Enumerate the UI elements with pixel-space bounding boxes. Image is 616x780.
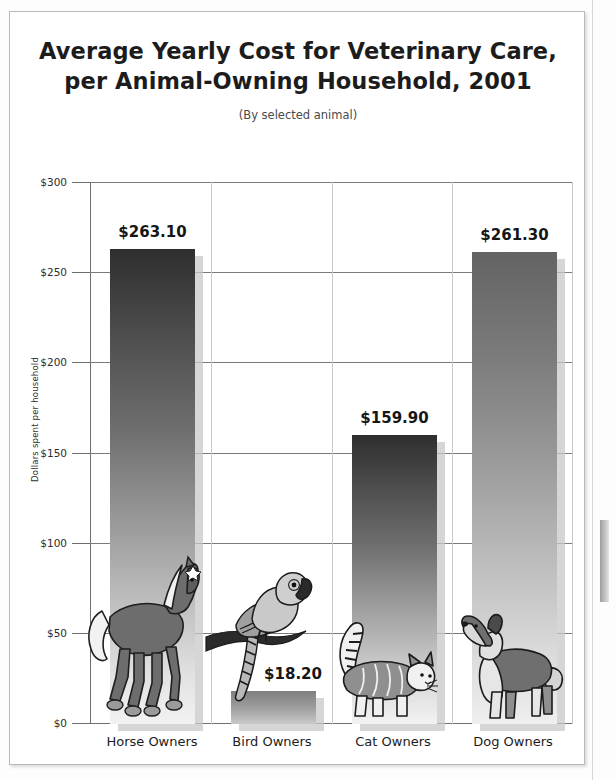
bar-fill-bird [231, 691, 316, 724]
y-tick-label-0: $0 [54, 717, 67, 729]
bar-value-cat: $159.90 [360, 409, 428, 427]
category-separator-3 [452, 182, 453, 724]
y-tick-label-150: $150 [40, 447, 67, 459]
tick-250 [72, 272, 90, 273]
bar-bird-owners[interactable]: $18.20 [231, 691, 316, 724]
bar-fill-dog [472, 252, 557, 724]
chart-title-line-1: Average Yearly Cost for Veterinary Care, [10, 36, 586, 66]
bar-fill-horse [110, 249, 195, 724]
bar-value-bird: $18.20 [264, 665, 322, 683]
bar-dog-owners[interactable]: $261.30 [472, 252, 557, 724]
x-tick-label-horse-owners: Horse Owners [106, 734, 197, 749]
y-axis-title: Dollars spent per household [30, 357, 40, 482]
y-tick-label-300: $300 [40, 176, 67, 188]
x-tick-label-dog-owners: Dog Owners [473, 734, 553, 749]
chart-subtitle: (By selected animal) [10, 108, 586, 122]
chart-title: Average Yearly Cost for Veterinary Care,… [10, 36, 586, 96]
y-tick-label-200: $200 [40, 356, 67, 368]
chart-title-line-2: per Animal-Owning Household, 2001 [10, 66, 586, 96]
category-separator-1 [211, 182, 212, 724]
page-edge-line [592, 0, 593, 780]
parrot-illustration [202, 563, 314, 708]
bar-value-horse: $263.10 [118, 223, 186, 241]
bar-fill-cat [352, 435, 437, 724]
tick-50 [72, 633, 90, 634]
category-separator-2 [332, 182, 333, 724]
scanned-page: Average Yearly Cost for Veterinary Care,… [0, 0, 616, 780]
y-tick-label-100: $100 [40, 537, 67, 549]
y-tick-label-50: $50 [47, 627, 67, 639]
bar-value-dog: $261.30 [480, 226, 548, 244]
tick-150 [72, 453, 90, 454]
bar-cat-owners[interactable]: $159.90 [352, 435, 437, 724]
category-separator-4 [572, 182, 573, 724]
x-tick-label-bird-owners: Bird Owners [232, 734, 311, 749]
bar-horse-owners[interactable]: $263.10 [110, 249, 195, 724]
tick-0 [72, 723, 90, 724]
page-binding-strip [600, 520, 609, 602]
tick-200 [72, 362, 90, 363]
plot-area: $300 $250 $200 $150 $100 $50 $0 [90, 182, 573, 724]
x-tick-label-cat-owners: Cat Owners [355, 734, 431, 749]
chart-figure-frame: Average Yearly Cost for Veterinary Care,… [9, 11, 585, 765]
tick-300 [72, 182, 90, 183]
y-tick-label-250: $250 [40, 266, 67, 278]
tick-100 [72, 543, 90, 544]
